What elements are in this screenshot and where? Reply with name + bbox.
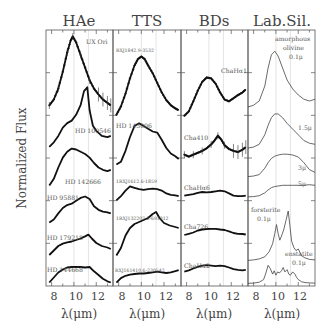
spectrum-label: 5μ [298, 180, 306, 188]
spectrum-label: HD 142666 [65, 178, 101, 185]
spectrum-label: HD 95881 [47, 194, 79, 201]
panel-hae [46, 30, 113, 286]
spectrum-label: Cha726 [184, 223, 208, 230]
labels-labsil: amorphous olivine 0.1μ 1.5μ 3μ 5μ forste… [251, 35, 313, 267]
spectrum-label: RXJ1842.9-3532 [116, 48, 154, 53]
spectrum-label: enstatite [285, 250, 313, 257]
spectrum-label: 1RXJ1612.6-1859 [116, 179, 157, 184]
x-tick-label: 12 [159, 290, 173, 303]
spectrum-label: ChaHα6 [184, 184, 210, 191]
x-axis-label: λ(μm) [129, 307, 165, 321]
spectrum-label: ChaHα1 [221, 67, 247, 74]
panel-labsil [248, 30, 315, 286]
spectrum-line [248, 265, 315, 283]
spectrum-label: HD 179218 [47, 234, 83, 241]
series-hd-100546 [49, 87, 111, 147]
series-enstatite-0-1- [248, 265, 315, 283]
spectrum-label: olivine [283, 44, 304, 51]
panel-title-hae: HAe [63, 12, 96, 30]
series-amorphous-olivine-0-1- [248, 51, 315, 107]
spectrum-label: HD 144668 [47, 266, 83, 273]
x-tick-label: 8 [253, 290, 260, 303]
x-tick-label: 10 [271, 290, 285, 303]
panel-title-bds: BDs [199, 12, 230, 30]
spectrum-line [248, 51, 315, 107]
spectrum-label: Cha410 [184, 134, 208, 141]
x-axis-labsil: 8 10 12 λ(μm) [253, 290, 308, 321]
x-axis-label: λ(μm) [61, 307, 97, 321]
spectrum-label: HD 100546 [75, 127, 111, 134]
labels-tts: RXJ1842.9-3532 HD 143006 1RXJ1612.6-1859… [115, 48, 169, 273]
spectrum-line [49, 37, 111, 106]
spectrum-line [116, 123, 178, 164]
x-axis-tts: 8 10 12 λ(μm) [119, 290, 174, 321]
x-tick-label: 10 [204, 290, 218, 303]
spectrum-line [116, 186, 178, 200]
panel-title-tts: TTS [132, 12, 163, 30]
series-chah-6 [184, 191, 246, 197]
spectrum-label: 3μ [298, 164, 306, 172]
spectrum-label: 1RXJ132207.2-693812 [116, 216, 169, 221]
spectrum-label: 0.1μ [289, 53, 303, 61]
series-hd-143006 [116, 123, 178, 164]
series-rxj1842-9-3532 [115, 55, 179, 116]
spectrum-label: 0.1μ [292, 259, 306, 267]
series-1-5- [248, 114, 315, 148]
x-axis-label: λ(μm) [196, 307, 232, 321]
spectrum-label: UX Ori [86, 38, 108, 45]
x-tick-label: 12 [91, 290, 105, 303]
x-axis-label: λ(μm) [264, 307, 300, 321]
spectrum-line [49, 87, 111, 147]
series-chah-1 [183, 76, 246, 117]
series-1rxj1612-6-1859 [116, 186, 178, 200]
x-tick-label: 12 [226, 290, 240, 303]
panel-tts [113, 30, 181, 286]
x-tick-label: 10 [69, 290, 83, 303]
spectrum-label: forsterite [251, 206, 281, 213]
x-tick-label: 8 [51, 290, 58, 303]
x-axis-bds: 8 10 12 λ(μm) [186, 290, 241, 321]
x-tick-label: 12 [293, 290, 307, 303]
y-axis-label: Normalized Flux [15, 107, 29, 208]
panels [46, 30, 315, 286]
x-axis-hae: 8 10 12 λ(μm) [51, 290, 106, 321]
spectrum-line [184, 191, 246, 197]
spectrum-label: 1.5μ [298, 124, 312, 132]
x-tick-label: 10 [137, 290, 151, 303]
spectra-figure: Normalized Flux HAe TTS BDs Lab.Sil. 8 1… [0, 0, 332, 336]
labels-hae: UX Ori HD 100546 HD 142666 HD 95881 HD 1… [47, 38, 111, 273]
x-tick-label: 8 [119, 290, 126, 303]
labels-bds: ChaHα1 Cha410 ChaHα6 Cha726 ChaHα2 [184, 67, 247, 269]
x-tick-label: 8 [186, 290, 193, 303]
spectrum-label: 0.1μ [257, 215, 271, 223]
panel-frame [248, 30, 315, 286]
spectrum-label: HD 143006 [116, 122, 152, 129]
spectrum-label: ChaHα2 [184, 262, 210, 269]
spectrum-line [248, 114, 315, 148]
panel-title-labsil: Lab.Sil. [253, 12, 311, 30]
spectrum-label: RXJ161410.6-230542 [115, 268, 165, 273]
spectrum-label: amorphous [275, 35, 310, 43]
